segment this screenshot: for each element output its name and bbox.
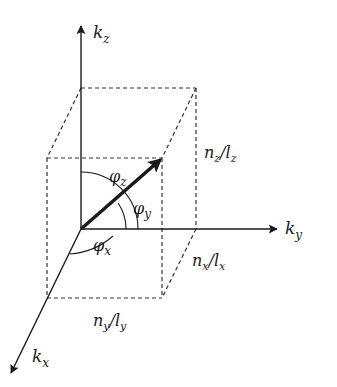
top-right-depth-edge bbox=[162, 88, 196, 158]
nx-lx-label: nx/lx bbox=[192, 251, 226, 273]
phi-y-arc bbox=[118, 203, 126, 229]
nz-lz-label: nz/lz bbox=[204, 143, 237, 165]
kx-axis bbox=[11, 229, 81, 373]
top-left-depth-edge bbox=[47, 88, 81, 158]
kz-label: kz bbox=[93, 22, 110, 46]
phi-z-label: φz bbox=[109, 167, 127, 189]
kx-label: kx bbox=[32, 346, 49, 370]
bottom-right-depth-edge bbox=[162, 229, 196, 298]
phi-y-label: φy bbox=[133, 199, 151, 221]
wavevector-diagram: kz ky kx φz φy φx nz/lz nx/lx ny/ly bbox=[0, 0, 337, 387]
ky-label: ky bbox=[285, 218, 302, 242]
ny-ly-label: ny/ly bbox=[93, 311, 127, 333]
